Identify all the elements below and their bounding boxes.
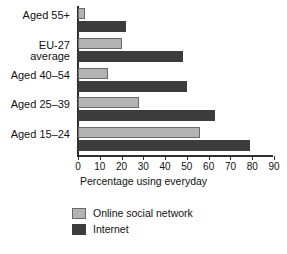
legend-item-internet: Internet [72, 223, 193, 235]
x-axis-line [77, 155, 273, 157]
category-label: EU-27 average [0, 40, 70, 63]
x-axis-tick [100, 156, 101, 160]
x-axis-tick-label: 40 [154, 161, 176, 172]
legend-item-online-social-network: Online social network [72, 207, 193, 219]
category-label: Aged 55+ [0, 10, 70, 22]
x-axis-tick-label: 20 [111, 161, 133, 172]
x-axis-tick-label: 90 [263, 161, 285, 172]
bar-internet [78, 21, 126, 32]
category-label: Aged 40–54 [0, 70, 70, 82]
x-axis-tick [143, 156, 144, 160]
legend: Online social network Internet [72, 207, 193, 239]
plot-area: Aged 55+ EU-27 average Aged 40–54 Aged 2… [0, 0, 287, 180]
x-axis-tick-label: 30 [132, 161, 154, 172]
legend-swatch-online-social-network [72, 208, 86, 219]
category-label: Aged 15–24 [0, 129, 70, 141]
x-axis-tick [230, 156, 231, 160]
bar-online-social-network [78, 127, 200, 138]
bar-group [78, 95, 278, 125]
legend-label: Online social network [93, 207, 193, 219]
bar-group [78, 66, 278, 96]
bar-online-social-network [78, 38, 122, 49]
bar-group [78, 36, 278, 66]
x-axis-tick-label: 70 [219, 161, 241, 172]
bar-online-social-network [78, 68, 108, 79]
x-axis-tick-label: 0 [67, 161, 89, 172]
bar-online-social-network [78, 8, 85, 19]
x-axis-tick-label: 10 [89, 161, 111, 172]
x-axis-tick [122, 156, 123, 160]
category-label: Aged 25–39 [0, 99, 70, 111]
x-axis-title: Percentage using everyday [0, 175, 287, 187]
x-axis-tick-label: 80 [241, 161, 263, 172]
x-axis-tick-label: 50 [176, 161, 198, 172]
x-axis-tick [165, 156, 166, 160]
bar-chart: Aged 55+ EU-27 average Aged 40–54 Aged 2… [0, 0, 287, 254]
bar-internet [78, 140, 250, 151]
x-axis-tick [209, 156, 210, 160]
legend-swatch-internet [72, 224, 86, 235]
bars-container [78, 6, 278, 155]
bar-group [78, 125, 278, 155]
bar-online-social-network [78, 97, 139, 108]
x-axis-tick-label: 60 [198, 161, 220, 172]
category-axis-labels: Aged 55+ EU-27 average Aged 40–54 Aged 2… [0, 6, 74, 154]
bar-internet [78, 110, 215, 121]
x-axis-tick [78, 156, 79, 160]
legend-label: Internet [93, 223, 129, 235]
bar-internet [78, 51, 183, 62]
bar-internet [78, 81, 187, 92]
x-axis-tick [274, 156, 275, 160]
bar-group [78, 6, 278, 36]
x-axis-tick [187, 156, 188, 160]
x-axis-tick [252, 156, 253, 160]
